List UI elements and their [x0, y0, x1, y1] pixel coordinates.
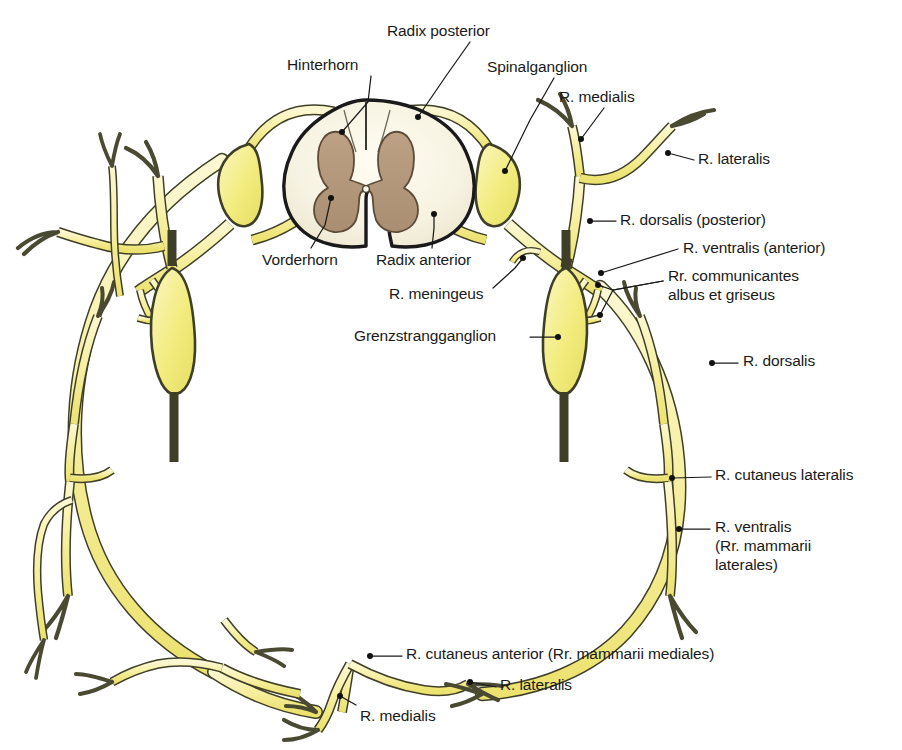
attachment-dot-r-dorsalis: [709, 360, 715, 366]
spinal-ganglion-right: [476, 144, 520, 226]
bottom-left-branch-fill: [224, 620, 256, 652]
label-r-cutaneus-lateralis: R. cutaneus lateralis: [715, 466, 853, 485]
attachment-dot-spinalganglion: [502, 168, 508, 174]
label-grenzstrangganglion: Grenzstrangganglion: [354, 327, 496, 346]
attachment-dot-r-lateralis-top: [665, 150, 671, 156]
left-upper-small-branch-fork: [100, 134, 120, 166]
attachment-dot-rr-communicantes-2: [597, 312, 603, 318]
left-mid-small-branch-fork: [26, 640, 44, 678]
nerve-trunk-left: [75, 160, 222, 672]
attachment-dot-r-lateralis-bottom: [467, 679, 473, 685]
label-r-lateralis-bottom: R. lateralis: [500, 676, 572, 695]
r-ventralis-mammarii-branch-fill: [668, 482, 672, 596]
nerve-trunk-left-fill: [75, 160, 222, 672]
attachment-dot-rr-communicantes: [595, 282, 601, 288]
label-r-medialis-top: R. medialis: [559, 88, 635, 107]
r-medialis-bottom-fork: [284, 720, 318, 740]
attachment-dot-r-medialis-top: [578, 136, 584, 142]
attachment-dot-radix-posterior: [415, 114, 421, 120]
r-lateralis-terminal-fork-left: [18, 232, 58, 254]
r-lateralis-terminal-fork: [672, 110, 714, 126]
bottom-left-fork: [256, 649, 292, 666]
label-rr-communicantes: Rr. communicantes albus et griseus: [668, 267, 799, 305]
leader-line-radix-posterior: [418, 42, 470, 117]
attachment-dot-r-dorsalis-posterior: [587, 218, 593, 224]
spinal-nerve-diagram: [0, 0, 902, 750]
label-r-dorsalis-posterior: R. dorsalis (posterior): [620, 211, 766, 230]
label-vorderhorn: Vorderhorn: [262, 251, 338, 270]
r-ventralis-mammarii-terminal-fork: [670, 596, 696, 638]
leader-line-spinalganglion: [505, 78, 554, 171]
leader-line-r-meningeus: [493, 258, 523, 288]
label-r-ventralis-mammarii: R. ventralis (Rr. mammarii laterales): [715, 518, 811, 575]
attachment-dot-r-cutaneus-lateralis: [669, 475, 675, 481]
label-r-ventralis-anterior: R. ventralis (anterior): [683, 239, 825, 258]
label-radix-posterior: Radix posterior: [387, 22, 490, 41]
attachment-dot-r-ventralis-anterior: [598, 270, 604, 276]
leader-line-r-medialis-top: [581, 108, 604, 139]
leader-line-r-ventralis-anterior: [601, 249, 678, 273]
label-spinalganglion: Spinalganglion: [487, 58, 587, 77]
anatomy-figure: Radix posteriorHinterhornSpinalganglionR…: [0, 0, 902, 750]
attachment-dot-hinterhorn: [339, 129, 345, 135]
attachment-dot-r-medialis-bottom: [337, 693, 343, 699]
label-r-meningeus: R. meningeus: [389, 285, 483, 304]
label-r-medialis-bottom: R. medialis: [360, 707, 436, 726]
sympathetic-ganglion-left: [151, 268, 195, 394]
sympathetic-ganglion-right: [543, 268, 587, 394]
bottom-left-distal-fork: [76, 674, 112, 694]
central-canal: [363, 186, 370, 193]
leader-line-r-lateralis-top: [668, 153, 694, 160]
label-r-cutaneus-anterior: R. cutaneus anterior (Rr. mammarii media…: [406, 645, 714, 664]
attachment-dot-r-cutaneus-anterior: [367, 653, 373, 659]
label-r-dorsalis: R. dorsalis: [743, 352, 815, 371]
label-radix-anterior: Radix anterior: [376, 251, 471, 270]
attachment-dot-grenzstrangganglion: [555, 334, 561, 340]
label-r-lateralis-top: R. lateralis: [698, 150, 770, 169]
attachment-dot-vorderhorn: [328, 195, 334, 201]
attachment-dot-r-ventralis-mammarii: [676, 526, 682, 532]
label-hinterhorn: Hinterhorn: [287, 56, 358, 75]
attachment-dot-r-meningeus: [520, 255, 526, 261]
r-medialis-terminal-fork-left: [126, 142, 158, 176]
spinal-cord-cross-section: [284, 100, 474, 248]
attachment-dot-radix-anterior: [431, 211, 437, 217]
